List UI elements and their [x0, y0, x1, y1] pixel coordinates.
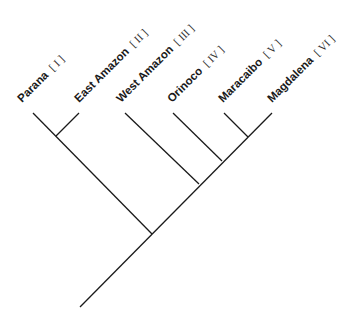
branch-west-amazon [125, 113, 199, 184]
branch-east-amazon [56, 113, 79, 136]
branch-maracaibo [224, 113, 248, 137]
trunk-branch [80, 113, 272, 307]
branch-parana [33, 113, 152, 234]
taxon-label-east-amazon: East Amazon[ II ] [72, 27, 150, 105]
branch-orinoco [173, 113, 222, 161]
svg-text:East Amazon[ II ]: East Amazon[ II ] [72, 27, 150, 105]
cladogram: Parana[ I ] East Amazon[ II ] West Amazo… [0, 0, 357, 322]
svg-text:Parana[ I ]: Parana[ I ] [15, 53, 67, 105]
taxon-label-parana: Parana[ I ] [15, 53, 67, 105]
